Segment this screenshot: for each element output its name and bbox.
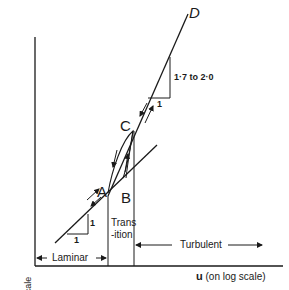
x-axis-label: u (on log scale) [196,270,266,282]
y-axis-note: on log scale [23,277,33,290]
x-axis-note: (on log scale) [206,271,266,282]
point-b-label: B [121,190,131,205]
transition-label-2: -ition [111,230,133,240]
turbulent-label: Turbulent [180,240,222,250]
turbulent-line [108,14,188,196]
point-d-label: D [189,5,200,20]
x-axis-symbol: u [196,270,203,282]
transition-loop [108,131,133,193]
transition-label-1: Trans [111,218,136,228]
turbulent-slope-rise: 1·7 to 2·0 [174,73,214,82]
diagram-canvas [0,0,289,290]
point-a-label: A [97,184,107,199]
y-axis-label: Δp / Lon log scale [16,225,36,290]
laminar-label: Laminar [52,253,88,263]
laminar-slope-run: 1 [74,236,79,245]
point-c-label: C [120,118,131,133]
laminar-slope-triangle [67,214,88,234]
turbulent-slope-run: 1 [157,100,162,109]
laminar-slope-rise: 1 [90,219,95,228]
